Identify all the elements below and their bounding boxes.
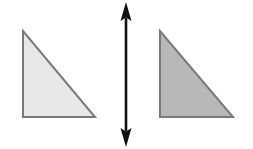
vertical-double-arrow-shaft	[125, 18, 128, 131]
diagram-svg	[0, 0, 253, 149]
figure-canvas	[0, 0, 253, 149]
